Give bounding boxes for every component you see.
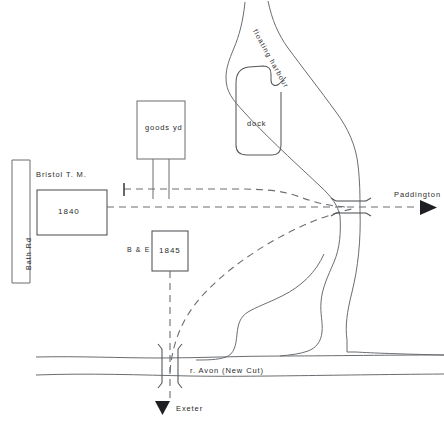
- sketch-map: Bath Rd Bristol T. M. 1840 goods yd dock…: [0, 0, 444, 425]
- label-exeter: Exeter: [176, 404, 203, 413]
- label-bristol-temple-meads: Bristol T. M.: [36, 170, 87, 179]
- label-dock: dock: [247, 119, 266, 128]
- label-goods-yard: goods yd: [145, 123, 183, 132]
- goods-yard-shape: [137, 101, 185, 199]
- label-station-1840: 1840: [58, 207, 80, 216]
- harbour-west-channel: [196, 254, 324, 360]
- harbour-south-channel: [280, 210, 444, 356]
- label-be-railway: B & E: [127, 246, 150, 253]
- label-bath-road: Bath Rd: [25, 237, 32, 270]
- arrow-right-icon: [420, 200, 437, 215]
- rail-goods-yard-spur: [124, 189, 346, 207]
- rail-be-curve: [170, 209, 352, 372]
- arrow-down-icon: [155, 401, 170, 415]
- label-station-1845: 1845: [159, 246, 181, 255]
- floating-harbour-water: [226, 1, 360, 216]
- label-river-avon-new-cut: r. Avon (New Cut): [190, 366, 264, 375]
- label-paddington: Paddington: [394, 190, 441, 199]
